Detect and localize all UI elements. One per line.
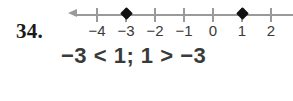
inequality-answer-text: −3 < 1; 1 > −3 — [61, 45, 206, 67]
axis-tick — [154, 8, 156, 22]
worksheet-answer-item: 34. −4 −3 −2 −1 0 1 2 −3 < 1; 1 > −3 — [0, 0, 293, 101]
axis-tick — [183, 8, 185, 22]
axis-tick — [270, 8, 272, 22]
axis-tick — [96, 8, 98, 22]
axis-tick-label: 2 — [251, 23, 291, 38]
plotted-point-marker — [236, 7, 249, 20]
plotted-point-marker — [120, 7, 133, 20]
problem-number-label: 34. — [16, 21, 43, 42]
number-line-diagram: −4 −3 −2 −1 0 1 2 — [68, 6, 293, 42]
axis-tick — [212, 8, 214, 22]
